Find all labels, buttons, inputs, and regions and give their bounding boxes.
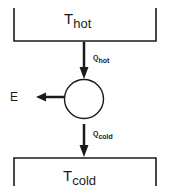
q-hot-arrow — [80, 42, 89, 79]
work-arrow — [36, 93, 64, 102]
q-hot-label: Qhot — [93, 53, 109, 64]
cold-reservoir-label: Tcold — [63, 168, 96, 187]
cold-symbol: T — [63, 167, 72, 184]
q-cold-subscript: cold — [98, 133, 112, 140]
work-label: E — [10, 91, 18, 103]
hot-symbol: T — [64, 10, 73, 27]
hot-subscript: hot — [73, 16, 91, 31]
cold-subscript: cold — [72, 173, 96, 188]
q-cold-label: Qcold — [93, 129, 113, 140]
work-symbol: E — [10, 90, 18, 104]
engine-circle — [65, 80, 104, 119]
q-cold-arrow — [80, 124, 89, 157]
hot-reservoir-label: Thot — [64, 11, 91, 30]
q-hot-subscript: hot — [98, 57, 109, 64]
